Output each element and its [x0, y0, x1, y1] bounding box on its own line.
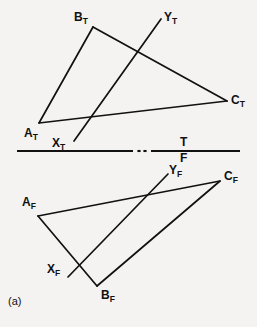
label-C-front: CF — [224, 170, 238, 182]
front-view-line-XY — [68, 174, 168, 277]
label-B-top: BT — [74, 11, 88, 23]
top-view-edge-AB — [39, 27, 93, 123]
front-view-edge-BC — [97, 181, 220, 286]
label-A-top: AT — [24, 127, 38, 139]
top-view-edge-CA — [39, 101, 227, 123]
front-view-edge-CA — [38, 181, 220, 216]
figure-caption: (a) — [8, 296, 21, 307]
label-Y-top: YT — [164, 11, 177, 23]
drawing-canvas — [0, 0, 257, 327]
label-X-front: XF — [47, 263, 60, 275]
front-view-geometry — [38, 174, 220, 286]
folding-line-label-front: F — [180, 152, 187, 164]
top-view-geometry — [39, 19, 227, 141]
folding-line-label-top: T — [180, 136, 187, 148]
technical-drawing-figure: AT BT CT XT YT T F AF BF CF XF YF (a) — [0, 0, 257, 327]
label-A-front: AF — [22, 196, 36, 208]
label-B-front: BF — [101, 289, 115, 301]
label-Y-front: YF — [169, 164, 182, 176]
top-view-edge-BC — [93, 27, 227, 101]
label-C-top: CT — [231, 94, 245, 106]
label-X-top: XT — [52, 137, 65, 149]
